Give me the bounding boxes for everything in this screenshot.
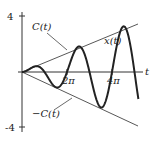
t-axis-label: t: [145, 66, 150, 77]
resonance-plot: 4 -4 t 2π 4π C(t) −C(t) x(t): [0, 0, 158, 141]
curve-label: x(t): [104, 35, 122, 46]
lower-envelope-label: −C(t): [32, 108, 60, 119]
y-max-label: 4: [7, 11, 13, 22]
upper-label-leader: [47, 33, 67, 50]
tick-label-4pi: 4π: [106, 75, 120, 86]
tick-label-2pi: 2π: [61, 75, 75, 86]
y-min-label: -4: [5, 122, 15, 133]
upper-envelope-label: C(t): [32, 21, 52, 32]
